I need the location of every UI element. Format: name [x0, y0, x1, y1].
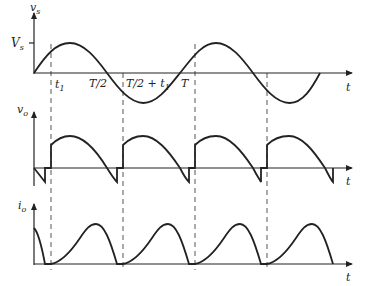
t1-marker-label: t1: [55, 79, 65, 93]
io-axis-label: io: [18, 200, 26, 214]
period-marker-label: T: [181, 78, 188, 89]
waveform-diagram: vs Vs t t1 T/2 T/2 + t1 T vo t io t: [0, 0, 367, 286]
vo-time-axis-label: t: [346, 176, 350, 187]
vo-axis-label: vo: [17, 104, 28, 118]
vo-axes: [34, 112, 352, 186]
io-waveform: [34, 224, 333, 264]
half-period-plus-t1-marker-label: T/2 + t1: [126, 78, 170, 92]
vo-waveform: [34, 136, 333, 182]
vs-axis-label: vs: [30, 2, 40, 16]
io-time-axis-label: t: [346, 272, 350, 283]
vs-peak-tick-label: Vs: [11, 37, 24, 52]
half-period-marker-label: T/2: [89, 78, 107, 89]
vs-time-axis-label: t: [346, 82, 350, 93]
waveform-svg: [0, 0, 367, 286]
